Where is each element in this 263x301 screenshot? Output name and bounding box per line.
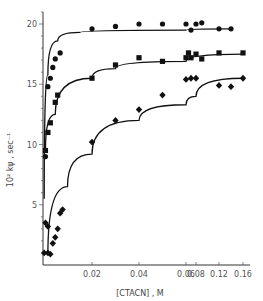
diamond-marker xyxy=(52,234,58,241)
circle-marker xyxy=(199,20,204,25)
square-marker xyxy=(186,50,191,55)
square-marker xyxy=(113,62,118,67)
circle-marker xyxy=(136,21,141,26)
diamond-marker xyxy=(228,83,234,90)
square-marker xyxy=(43,148,48,153)
circle-marker xyxy=(160,21,165,26)
circle-marker xyxy=(193,21,198,26)
square-marker xyxy=(216,50,221,55)
circle-marker xyxy=(48,76,53,81)
square-marker xyxy=(240,50,245,55)
y-tick-label: 15 xyxy=(27,80,37,89)
square-marker xyxy=(193,52,198,57)
diamond-marker xyxy=(159,92,165,99)
squares-fit-curve xyxy=(45,54,243,150)
x-tick-label: 0.08 xyxy=(187,270,205,279)
circles-fit-curve xyxy=(44,29,231,199)
square-marker xyxy=(136,55,141,60)
diamonds-fit-curve xyxy=(48,78,243,254)
diamond-marker xyxy=(216,82,222,89)
x-tick-label: 0.12 xyxy=(210,270,228,279)
square-marker xyxy=(188,55,193,60)
circle-marker xyxy=(43,154,48,159)
diamond-marker xyxy=(183,76,189,83)
fit-curves xyxy=(44,29,243,254)
square-marker xyxy=(53,100,58,105)
square-marker xyxy=(183,55,188,60)
circle-marker xyxy=(53,56,58,61)
chart: 51015200.020.040.060.080.120.16 [CTACN] … xyxy=(0,0,263,301)
circle-marker xyxy=(50,65,55,70)
diamond-marker xyxy=(55,225,61,232)
x-axis-label: [CTACN] , M xyxy=(116,289,164,298)
circle-marker xyxy=(45,84,50,89)
data-points xyxy=(41,20,246,257)
square-marker xyxy=(45,130,50,135)
x-tick-label: 0.02 xyxy=(83,270,101,279)
square-marker xyxy=(55,92,60,97)
circle-marker xyxy=(188,27,193,32)
circle-marker xyxy=(113,24,118,29)
y-tick-label: 20 xyxy=(27,20,37,29)
y-axis-label: 10² kψ , sec⁻¹ xyxy=(6,133,15,187)
y-tick-label: 10 xyxy=(27,141,37,150)
diamond-marker xyxy=(136,106,142,113)
circle-marker xyxy=(58,50,63,55)
square-marker xyxy=(89,76,94,81)
diamond-marker xyxy=(50,240,56,247)
square-marker xyxy=(48,120,53,125)
x-tick-label: 0.04 xyxy=(130,270,148,279)
circle-marker xyxy=(228,26,233,31)
circle-marker xyxy=(89,26,94,31)
square-marker xyxy=(199,56,204,61)
x-tick-label: 0.16 xyxy=(234,270,252,279)
y-tick-label: 5 xyxy=(32,201,37,210)
diamond-marker xyxy=(193,75,199,82)
square-marker xyxy=(160,59,165,64)
diamond-marker xyxy=(240,75,246,82)
circle-marker xyxy=(183,21,188,26)
circle-marker xyxy=(216,26,221,31)
